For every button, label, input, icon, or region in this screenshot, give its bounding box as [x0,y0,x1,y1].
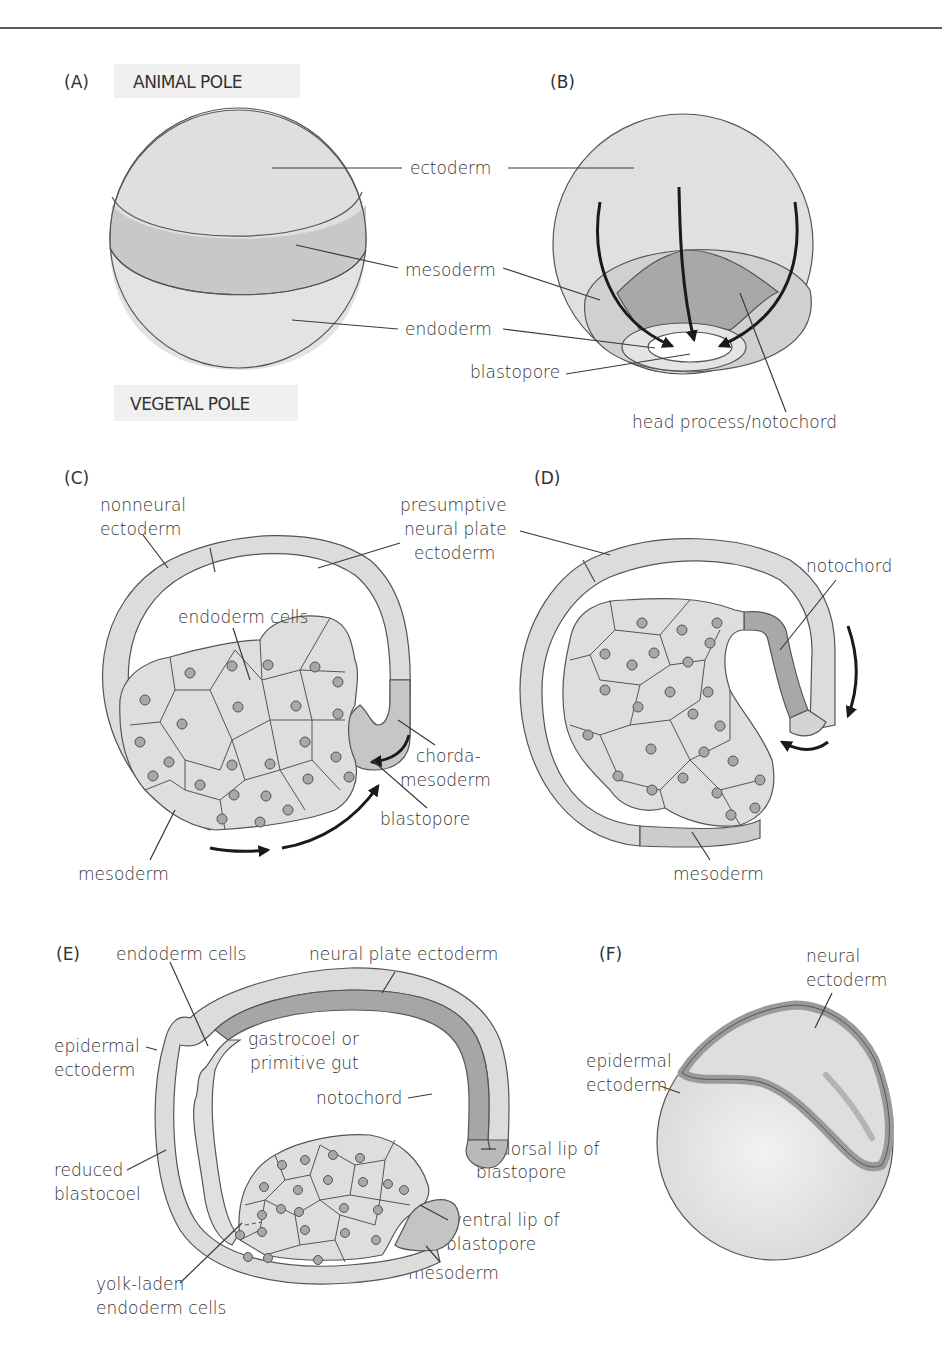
panel-b-label: (B) [550,72,575,92]
label-ventral-lip-1: ventral lip of [452,1210,560,1230]
label-gastrocoel-2: primitive gut [250,1053,359,1073]
label-endoderm-cells-e: endoderm cells [116,944,246,964]
panel-c-label: (C) [64,468,89,488]
label-epidermal-1-e: epidermal [54,1036,140,1056]
label-mesoderm-c: mesoderm [78,864,169,884]
label-mesoderm-d: mesoderm [673,864,764,884]
panel-c: (C) nonneural ectoderm presumptive neura… [64,468,507,884]
label-presumptive-2: neural plate [404,519,507,539]
panel-b: (B) [503,72,813,412]
panel-a: (A) ANIMAL POLE VEGETAL POLE [64,64,402,421]
label-neural-plate-e: neural plate ectoderm [309,944,498,964]
panel-d: (D) [520,468,892,884]
panel-e-label: (E) [56,944,80,964]
endoderm-cell-mass-d [563,599,774,827]
label-yolk-1: yolk-laden [96,1274,184,1294]
label-chorda-1: chorda- [416,746,481,766]
panel-f: (F) neural ectoderm epidermal ectoderm [586,944,893,1260]
label-reduced-2: blastocoel [54,1184,141,1204]
label-neural-2-f: ectoderm [806,970,887,990]
panel-a-label: (A) [64,72,89,92]
animal-pole-label: ANIMAL POLE [133,72,242,92]
label-head-process-notochord: head process/notochord [632,412,837,432]
label-chorda-2: mesoderm [400,770,491,790]
label-gastrocoel-1: gastrocoel or [248,1029,359,1049]
label-nonneural-2: ectoderm [100,519,181,539]
label-ventral-lip-2: blastopore [446,1234,536,1254]
label-nonneural-1: nonneural [100,495,186,515]
label-neural-1-f: neural [806,946,860,966]
label-presumptive-3: ectoderm [414,543,495,563]
panel-f-label: (F) [599,944,622,964]
label-dorsal-lip-1: dorsal lip of [500,1139,600,1159]
panel-e: (E) endoderm cells neural plate ectoderm… [54,944,600,1318]
label-reduced-1: reduced [54,1160,123,1180]
label-notochord-d: notochord [806,556,892,576]
label-yolk-2: endoderm cells [96,1298,226,1318]
label-epidermal-2-e: ectoderm [54,1060,135,1080]
label-blastopore-c: blastopore [380,809,470,829]
panel-d-label: (D) [534,468,560,488]
label-epidermal-1-f: epidermal [586,1051,672,1071]
label-mesoderm: mesoderm [405,260,496,280]
label-notochord-e: notochord [316,1088,402,1108]
label-endoderm-cells-c: endoderm cells [178,607,308,627]
vegetal-pole-label: VEGETAL POLE [130,394,250,414]
label-epidermal-2-f: ectoderm [586,1075,667,1095]
panel-a-sphere [110,108,366,370]
embryo-gastrulation-figure: (A) ANIMAL POLE VEGETAL POLE ectoderm me… [0,0,942,1356]
label-presumptive-1: presumptive [400,495,507,515]
label-endoderm: endoderm [405,319,492,339]
label-blastopore: blastopore [470,362,560,382]
label-ectoderm: ectoderm [410,158,491,178]
